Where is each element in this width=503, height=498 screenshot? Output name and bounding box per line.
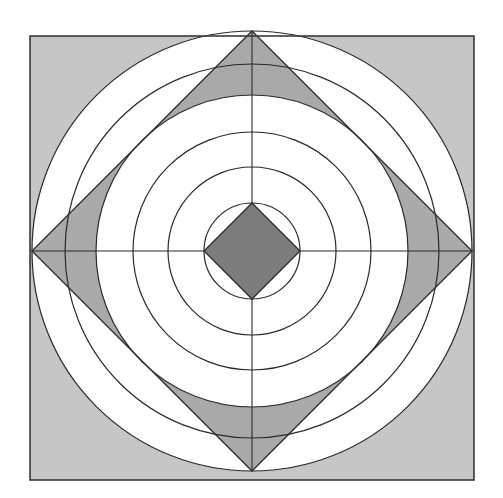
geometric-diagram bbox=[0, 0, 503, 498]
